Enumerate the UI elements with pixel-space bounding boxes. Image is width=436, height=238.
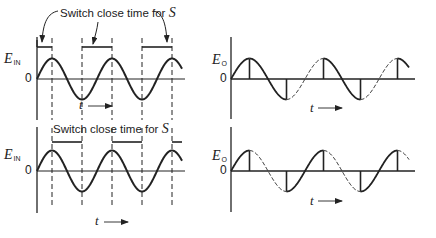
panel-bottom-left xyxy=(37,127,185,222)
y-label-subscript: O xyxy=(222,60,227,67)
zero-label-bottom-left: 0 xyxy=(25,164,32,176)
panel-top-left xyxy=(37,11,185,120)
y-label-eo-bottom: EO xyxy=(212,149,227,163)
caption-text: Switch close time for xyxy=(60,7,165,19)
y-label-eo-top: EO xyxy=(212,53,227,67)
y-label-subscript: O xyxy=(222,156,227,163)
zero-label-bottom-right: 0 xyxy=(220,164,227,176)
y-label-subscript: IN xyxy=(14,59,21,66)
y-label-main: E xyxy=(212,148,221,163)
switch-caption-top: Switch close time for S xyxy=(60,6,176,20)
zero-label-top-right: 0 xyxy=(220,72,227,84)
t-label-top-left: t xyxy=(79,98,83,111)
caption-arrow-icon xyxy=(93,22,98,44)
t-label-bottom-left: t xyxy=(95,214,99,227)
panel-bottom-right xyxy=(231,127,415,212)
caption-arrow-icon xyxy=(42,11,58,42)
output-waveform-solid xyxy=(398,59,410,68)
switch-caption-bottom: Switch close time for S xyxy=(53,122,169,136)
t-label-top-right: t xyxy=(310,101,314,114)
caption-variable: S xyxy=(162,121,169,136)
panel-top-right xyxy=(231,37,415,119)
output-waveform-solid xyxy=(231,59,250,80)
y-label-main: E xyxy=(4,51,13,66)
y-label-main: E xyxy=(212,52,221,67)
y-label-ein-top: EIN xyxy=(4,52,21,66)
zero-label-top-left: 0 xyxy=(25,72,32,84)
y-label-ein-bottom: EIN xyxy=(4,148,21,162)
t-label-bottom-right: t xyxy=(310,194,314,207)
output-waveform-solid xyxy=(231,151,250,172)
switching-waveform-diagram xyxy=(0,0,436,238)
input-waveform-dashed xyxy=(398,151,410,160)
y-label-main: E xyxy=(4,147,13,162)
caption-text: Switch close time for xyxy=(53,123,158,135)
y-label-subscript: IN xyxy=(14,155,21,162)
caption-variable: S xyxy=(169,5,176,20)
